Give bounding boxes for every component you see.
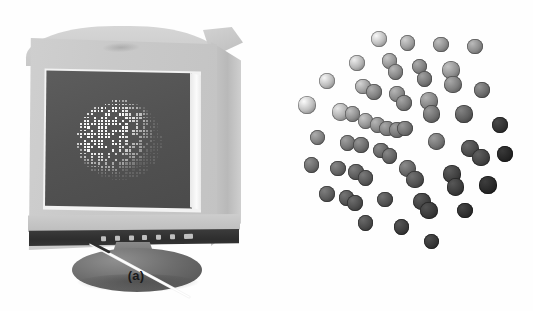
screen-point <box>98 140 100 142</box>
sphere-30 <box>310 130 326 146</box>
screen-point <box>112 179 114 181</box>
screen-point <box>112 110 114 112</box>
screen-point <box>129 107 131 109</box>
screen-point <box>139 149 141 151</box>
monitor-button-5[interactable] <box>156 234 161 239</box>
screen-point <box>84 133 86 135</box>
screen-point <box>139 156 141 158</box>
screen-point <box>115 179 117 181</box>
screen-point <box>132 166 134 168</box>
screen-point <box>87 162 89 164</box>
screen-point <box>91 113 93 115</box>
screen-point <box>98 156 100 158</box>
screen-point <box>125 169 127 171</box>
monitor-screen[interactable] <box>45 69 192 210</box>
screen-point <box>136 166 138 168</box>
screen-point <box>119 172 121 174</box>
screen-point <box>139 107 141 109</box>
monitor-button-4[interactable] <box>142 234 147 239</box>
screen-point <box>94 153 96 155</box>
screen-point <box>153 136 155 138</box>
screen-point <box>143 169 145 171</box>
screen-point <box>87 126 89 128</box>
screen-point <box>132 104 134 106</box>
screen-point <box>157 136 159 138</box>
screen-point <box>160 136 162 138</box>
screen-point <box>157 126 159 128</box>
screen-point <box>119 123 121 125</box>
screen-point <box>146 143 148 145</box>
screen-point <box>143 172 145 174</box>
screen-point <box>98 133 100 135</box>
screen-point <box>150 140 152 142</box>
screen-point <box>143 117 145 119</box>
screen-point <box>136 172 138 174</box>
screen-point <box>136 162 138 164</box>
screen-point <box>125 143 127 145</box>
screen-point <box>105 146 107 148</box>
screen-point <box>98 146 100 148</box>
screen-point <box>115 117 117 119</box>
screen-point <box>146 153 148 155</box>
screen-point <box>94 133 96 135</box>
screen-point <box>143 136 145 138</box>
screen-point <box>146 169 148 171</box>
screen-point <box>101 175 103 177</box>
sphere-54 <box>457 203 473 219</box>
sphere-14 <box>366 84 382 100</box>
screen-point <box>91 133 93 135</box>
monitor-button-3[interactable] <box>129 235 134 240</box>
screen-point <box>153 156 155 158</box>
screen-point <box>80 130 82 132</box>
monitor-button-6[interactable] <box>170 234 175 239</box>
screen-point <box>132 153 134 155</box>
monitor-button-7[interactable] <box>184 233 193 238</box>
screen-point <box>115 107 117 109</box>
screen-point <box>84 149 86 151</box>
screen-point <box>77 133 79 135</box>
screen-point <box>157 133 159 135</box>
screen-point <box>129 146 131 148</box>
screen-point <box>80 149 82 151</box>
sphere-27 <box>397 121 413 137</box>
screen-point <box>125 172 127 174</box>
screen-point <box>91 123 93 125</box>
screen-point <box>77 146 79 148</box>
sphere-5 <box>349 55 365 71</box>
screen-point <box>101 107 103 109</box>
screen-point <box>77 143 79 145</box>
screen-point <box>139 166 141 168</box>
screen-point <box>91 162 93 164</box>
screen-point <box>115 123 117 125</box>
caption-a: (a) <box>0 268 272 283</box>
screen-point <box>146 130 148 132</box>
screen-point <box>153 146 155 148</box>
screen-point <box>87 166 89 168</box>
monitor-button-2[interactable] <box>115 235 120 240</box>
screen-point <box>108 120 110 122</box>
screen-point <box>139 169 141 171</box>
screen-point <box>84 130 86 132</box>
screen-point <box>84 153 86 155</box>
screen-point <box>146 113 148 115</box>
screen-point <box>101 126 103 128</box>
screen-point <box>139 140 141 142</box>
screen-point <box>84 126 86 128</box>
screen-point <box>143 159 145 161</box>
screen-point <box>122 179 124 181</box>
sphere-9 <box>417 71 433 87</box>
screen-point <box>160 146 162 148</box>
screen-point <box>119 113 121 115</box>
screen-point <box>105 169 107 171</box>
sphere-53 <box>420 202 438 220</box>
screen-point <box>112 130 114 132</box>
screen-point <box>125 110 127 112</box>
screen-point <box>112 100 114 102</box>
screen-point <box>101 143 103 145</box>
screen-point <box>143 153 145 155</box>
monitor-button-1[interactable] <box>101 236 106 241</box>
screen-point <box>146 162 148 164</box>
screen-point <box>125 136 127 138</box>
screen-point <box>139 172 141 174</box>
screen-point <box>98 169 100 171</box>
